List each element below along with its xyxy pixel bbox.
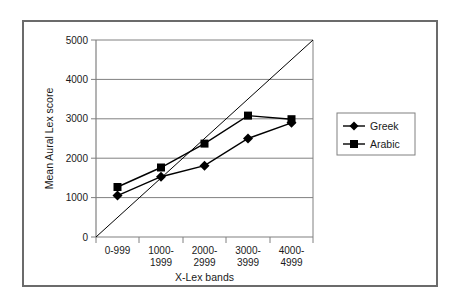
ytick-label-3000: 3000	[66, 113, 89, 124]
ytick-label-1000: 1000	[66, 192, 89, 203]
legend-label-arabic: Arabic	[370, 138, 400, 150]
xtick-label-band-3-line1: 2000-	[192, 245, 218, 256]
xtick-label-band-2-line1: 1000-	[148, 245, 174, 256]
marker-greek-band-4	[243, 134, 253, 144]
xtick-label-band-4-line1: 3000-	[235, 245, 261, 256]
legend-label-greek: Greek	[370, 120, 399, 132]
chart-legend[interactable]: Greek Arabic	[337, 113, 415, 155]
series-line-arabic	[118, 116, 292, 187]
marker-greek-band-1	[113, 191, 123, 201]
y-axis-tick-labels: 5000 4000 3000 2000 1000 0	[66, 35, 89, 243]
x-axis-title: X-Lex bands	[175, 271, 234, 283]
x-axis-ticks	[96, 237, 313, 243]
xtick-label-band-5-line2: 4999	[280, 257, 303, 268]
marker-arabic-band-1	[114, 183, 122, 191]
y-axis-ticks	[91, 40, 96, 237]
marker-arabic-band-3	[201, 140, 209, 148]
xtick-label-band-2-line2: 1999	[150, 257, 173, 268]
ytick-label-4000: 4000	[66, 74, 89, 85]
line-chart: 5000 4000 3000 2000 1000 0 0-999 1000- 1…	[0, 0, 459, 303]
y-axis-title: Mean Aural Lex score	[43, 88, 55, 190]
figure-container: 5000 4000 3000 2000 1000 0 0-999 1000- 1…	[0, 0, 459, 303]
xtick-label-band-5-line1: 4000-	[279, 245, 305, 256]
marker-arabic-band-2	[157, 164, 165, 172]
x-axis-tick-labels: 0-999 1000- 1999 2000- 2999 3000- 3999 4…	[105, 245, 305, 268]
legend-marker-arabic-square-icon	[350, 140, 358, 148]
xtick-label-band-1-line1: 0-999	[105, 245, 131, 256]
reference-diagonal-line	[96, 40, 313, 237]
marker-greek-band-2	[156, 172, 166, 182]
ytick-label-5000: 5000	[66, 35, 89, 46]
series-line-greek	[118, 123, 292, 196]
ytick-label-2000: 2000	[66, 153, 89, 164]
ytick-label-0: 0	[82, 232, 88, 243]
marker-arabic-band-4	[244, 112, 252, 120]
xtick-label-band-4-line2: 3999	[237, 257, 260, 268]
marker-greek-band-3	[200, 161, 210, 171]
xtick-label-band-3-line2: 2999	[193, 257, 216, 268]
series-markers-arabic	[114, 112, 296, 191]
